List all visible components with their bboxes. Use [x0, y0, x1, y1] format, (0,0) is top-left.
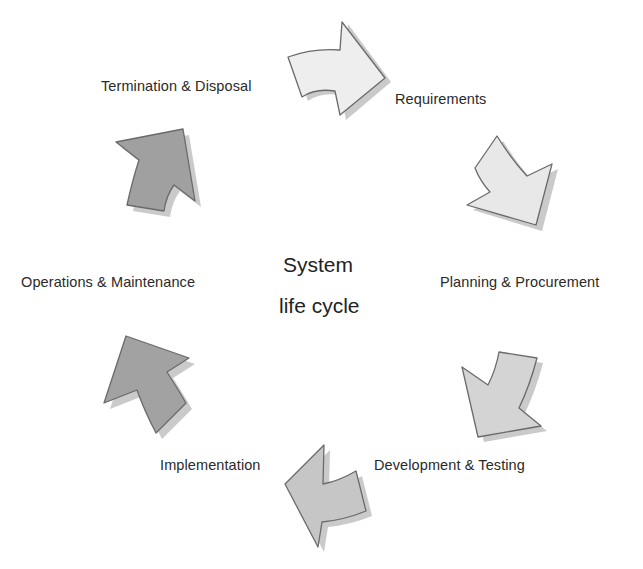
center-title-line-2: life cycle [279, 294, 360, 318]
arrow-down-right-icon [467, 136, 558, 231]
center-title-line-1: System [283, 253, 353, 277]
stage-label-implementation: Implementation [160, 457, 261, 473]
arrow-right-icon [288, 22, 391, 120]
stage-label-requirements: Requirements [395, 91, 486, 107]
arrow-left-icon [285, 445, 372, 552]
arrow-up-right-icon [116, 129, 201, 217]
stage-label-operations-maintenance: Operations & Maintenance [21, 274, 195, 290]
stage-label-development-testing: Development & Testing [374, 457, 525, 473]
arrow-up-left-icon [104, 336, 195, 439]
stage-label-termination-disposal: Termination & Disposal [101, 78, 252, 94]
arrow-down-left-icon [462, 352, 547, 442]
system-life-cycle-diagram: System life cycle Requirements Planning … [0, 0, 643, 569]
stage-label-planning-procurement: Planning & Procurement [440, 274, 599, 290]
